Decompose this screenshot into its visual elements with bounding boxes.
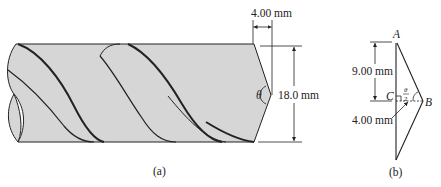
drill-bit: [8, 44, 272, 142]
caption-b: (b): [389, 166, 403, 179]
caption-a: (a): [153, 165, 166, 178]
point-B-label: B: [425, 96, 432, 108]
point-C-label: C: [386, 90, 394, 102]
point-A-label: A: [392, 28, 401, 40]
half-angle-numerator: θ: [404, 86, 408, 94]
CB-length-label: 4.00 mm: [352, 114, 393, 126]
theta-label: θ: [256, 89, 262, 101]
AC-length-label: 9.00 mm: [352, 65, 393, 77]
tip-length-label: 4.00 mm: [251, 7, 292, 19]
drill-body: [8, 44, 272, 142]
right-angle-marker: [396, 96, 401, 101]
diameter-label: 18.0 mm: [278, 89, 319, 101]
tip-triangle: [396, 43, 423, 160]
drill-figure: θ 4.00 mm 18.0 mm (a) A B C θ 2: [0, 0, 441, 187]
CB-leader: [392, 102, 408, 118]
half-angle-arc: [413, 92, 418, 101]
half-angle-denominator: 2: [404, 95, 408, 103]
